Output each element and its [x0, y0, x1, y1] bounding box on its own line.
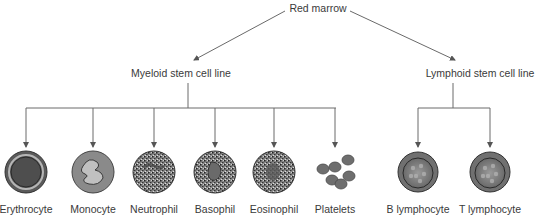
cell-label: Neutrophil: [130, 203, 178, 215]
basophil-icon: [194, 151, 236, 193]
root-label: Red marrow: [289, 2, 347, 14]
cell-monocyte: Monocyte: [70, 108, 116, 215]
cell-label: Platelets: [315, 203, 355, 215]
arrow-to-lymphoid: [350, 11, 455, 60]
cell-neutrophil: Neutrophil: [130, 108, 178, 215]
cell-eosinophil: Eosinophil: [250, 108, 298, 215]
cell-label: Eosinophil: [250, 203, 298, 215]
cell-label: Basophil: [195, 203, 235, 215]
cell-basophil: Basophil: [194, 108, 236, 215]
lymphocyte-icon: [470, 152, 510, 192]
monocyte-icon: [72, 151, 114, 193]
cell-platelets: Platelets: [315, 108, 355, 215]
blood-cell-lineage-diagram: Red marrow Myeloid stem cell line Lympho…: [0, 0, 545, 223]
cell-erythrocyte: Erythrocyte: [0, 108, 53, 215]
lymphocyte-icon: [398, 152, 438, 192]
neutrophil-icon: [133, 151, 175, 193]
myeloid-label: Myeloid stem cell line: [131, 67, 231, 79]
eosinophil-icon: [253, 151, 295, 193]
erythrocyte-icon: [5, 151, 47, 193]
cell-t-lymphocyte: T lymphocyte: [459, 108, 521, 215]
platelets-icon: [317, 155, 355, 189]
cell-label: Erythrocyte: [0, 203, 53, 215]
lymphoid-label: Lymphoid stem cell line: [426, 67, 535, 79]
arrow-to-myeloid: [194, 11, 285, 60]
cell-label: B lymphocyte: [386, 203, 449, 215]
cell-b-lymphocyte: B lymphocyte: [386, 108, 449, 215]
cell-label: Monocyte: [70, 203, 116, 215]
cell-label: T lymphocyte: [459, 203, 521, 215]
